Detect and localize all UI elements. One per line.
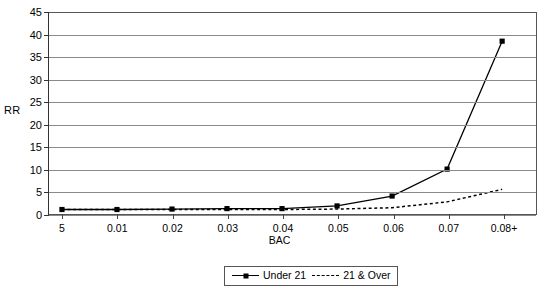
legend-label-21-and-over: 21 & Over (343, 269, 390, 282)
y-axis-tick-label: 35 (30, 52, 42, 63)
y-axis-tick-label: 15 (30, 142, 42, 153)
data-point-marker (390, 193, 395, 198)
data-point-marker (169, 206, 174, 211)
gridline (49, 12, 536, 13)
gridline (49, 147, 536, 148)
y-axis-tick (44, 147, 49, 148)
x-axis-tick-label: 0.08+ (491, 222, 518, 234)
x-axis-tick (504, 214, 505, 219)
x-axis-title: BAC (0, 234, 559, 246)
data-point-marker (500, 39, 505, 44)
y-axis-tick-label: 40 (30, 29, 42, 40)
y-axis-tick (44, 102, 49, 103)
y-axis-tick-label: 25 (30, 97, 42, 108)
gridline (49, 192, 536, 193)
y-axis-tick (44, 57, 49, 58)
gridline (49, 57, 536, 58)
chart-legend: Under 21 21 & Over (224, 266, 398, 286)
solid-line-square-marker-icon (232, 271, 259, 280)
x-axis-tick-label: 5 (59, 222, 65, 234)
gridline (49, 102, 536, 103)
y-axis-tick (44, 80, 49, 81)
gridline (49, 215, 536, 216)
x-axis-tick (228, 214, 229, 219)
x-axis-tick-label: 0.05 (328, 222, 348, 234)
y-axis-tick-label: 0 (36, 210, 42, 221)
y-axis-tick (44, 215, 49, 216)
series-overlay (49, 12, 536, 214)
data-point-marker (59, 207, 64, 212)
legend-label-under-21: Under 21 (263, 269, 306, 282)
data-point-marker (114, 207, 119, 212)
gridline (49, 35, 536, 36)
chart-screenshot: RR 05101520253035404550.010.020.030.040.… (0, 0, 559, 291)
x-axis-tick-label: 0.02 (162, 222, 182, 234)
x-axis-tick-label: 0.07 (439, 222, 459, 234)
x-axis-tick-label: 0.06 (383, 222, 403, 234)
x-axis-tick (62, 214, 63, 219)
legend-entry-21-and-over: 21 & Over (312, 269, 390, 282)
x-axis-tick (117, 214, 118, 219)
y-axis-tick (44, 35, 49, 36)
y-axis-tick-label: 45 (30, 7, 42, 18)
y-axis-tick-label: 30 (30, 74, 42, 85)
gridline (49, 170, 536, 171)
plot-inner: 05101520253035404550.010.020.030.040.050… (49, 12, 536, 214)
gridline (49, 80, 536, 81)
gridline (49, 125, 536, 126)
x-axis-tick (338, 214, 339, 219)
plot-area: 05101520253035404550.010.020.030.040.050… (48, 12, 537, 215)
y-axis-tick (44, 192, 49, 193)
x-axis-tick (449, 214, 450, 219)
x-axis-tick-label: 0.01 (107, 222, 127, 234)
dashed-line-icon (312, 271, 339, 280)
y-axis-tick (44, 12, 49, 13)
y-axis-tick-label: 10 (30, 164, 42, 175)
data-point-marker (334, 203, 339, 208)
data-point-marker (279, 206, 284, 211)
legend-entry-under-21: Under 21 (232, 269, 306, 282)
x-axis-tick-label: 0.04 (273, 222, 293, 234)
y-axis-tick-label: 5 (36, 187, 42, 198)
x-axis-tick (173, 214, 174, 219)
x-axis-tick (394, 214, 395, 219)
x-axis-tick (283, 214, 284, 219)
y-axis-tick (44, 125, 49, 126)
data-point-marker (224, 206, 229, 211)
x-axis-tick-label: 0.03 (218, 222, 238, 234)
y-axis-tick (44, 170, 49, 171)
y-axis-tick-label: 20 (30, 119, 42, 130)
y-axis-title: RR (4, 104, 20, 116)
